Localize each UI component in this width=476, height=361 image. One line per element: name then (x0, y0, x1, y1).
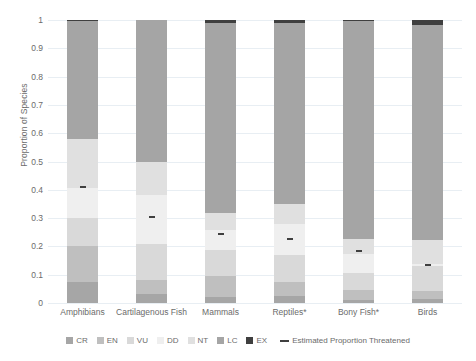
stacked-bar[interactable] (67, 20, 98, 303)
bar-segment-dd[interactable] (343, 254, 374, 272)
threatened-proportion-marker (218, 233, 224, 235)
gridline (48, 303, 462, 304)
bar-segment-vu[interactable] (136, 244, 167, 281)
bar-segment-lc[interactable] (274, 23, 305, 204)
stacked-bar[interactable] (205, 20, 236, 303)
threatened-proportion-marker (80, 186, 86, 188)
gridline (48, 275, 462, 276)
legend-swatch-icon (246, 337, 253, 344)
threatened-proportion-marker (149, 216, 155, 218)
y-axis-tick-label: 1 (38, 15, 43, 25)
bar-segment-nt[interactable] (205, 213, 236, 230)
bar-segment-vu[interactable] (412, 266, 443, 291)
bar-segment-lc[interactable] (343, 21, 374, 239)
bar-segment-lc[interactable] (136, 20, 167, 162)
bar-segment-lc[interactable] (205, 23, 236, 213)
gridline (48, 48, 462, 49)
bar-segment-nt[interactable] (67, 139, 98, 189)
gridline (48, 105, 462, 106)
chart-legend: CRENVUDDNTLCEXEstimated Proportion Threa… (0, 336, 476, 345)
bar-segment-en[interactable] (136, 280, 167, 294)
threatened-proportion-marker (425, 264, 431, 266)
bar-segment-ex[interactable] (343, 20, 374, 21)
bar-segment-nt[interactable] (274, 204, 305, 224)
legend-item-label: EN (107, 336, 118, 345)
y-axis-tick-label: 0.4 (31, 185, 43, 195)
bar-segment-vu[interactable] (67, 218, 98, 246)
legend-item-threatened[interactable]: Estimated Proportion Threatened (280, 336, 410, 345)
chart-root: Proportion of Species 10.90.80.70.60.50.… (0, 0, 476, 361)
bar-segment-cr[interactable] (274, 296, 305, 303)
y-axis-title: Proportion of Species (19, 45, 29, 205)
legend-swatch-icon (157, 337, 164, 344)
y-axis-tick-label: 0.8 (31, 72, 43, 82)
bar-segment-en[interactable] (205, 276, 236, 297)
x-axis-label: Birds (382, 307, 474, 318)
legend-item-label: LC (227, 336, 237, 345)
bar-segment-ex[interactable] (274, 20, 305, 23)
legend-item-label: VU (137, 336, 148, 345)
bar-segment-dd[interactable] (136, 195, 167, 243)
plot-area: 10.90.80.70.60.50.40.30.20.10 (48, 20, 462, 303)
gridline (48, 133, 462, 134)
legend-swatch-icon (127, 337, 134, 344)
gridline (48, 77, 462, 78)
gridline (48, 162, 462, 163)
bar-segment-dd[interactable] (67, 188, 98, 218)
legend-item-label: EX (256, 336, 267, 345)
legend-item-vu[interactable]: VU (127, 336, 148, 345)
y-axis-tick-label: 0.6 (31, 128, 43, 138)
legend-item-label: NT (198, 336, 209, 345)
bar-segment-lc[interactable] (67, 21, 98, 138)
bar-segment-vu[interactable] (205, 250, 236, 275)
bar-segment-cr[interactable] (136, 294, 167, 303)
bar-segment-vu[interactable] (343, 273, 374, 290)
stacked-bar[interactable] (343, 20, 374, 303)
gridline (48, 218, 462, 219)
y-axis-tick-label: 0.9 (31, 43, 43, 53)
bar-segment-nt[interactable] (136, 162, 167, 196)
bar-segment-nt[interactable] (343, 239, 374, 255)
bar-segment-en[interactable] (412, 291, 443, 299)
stacked-bar[interactable] (136, 20, 167, 303)
stacked-bar[interactable] (412, 20, 443, 303)
legend-item-nt[interactable]: NT (188, 336, 209, 345)
y-axis-tick-label: 0.1 (31, 270, 43, 280)
bar-segment-ex[interactable] (412, 20, 443, 25)
bar-segment-nt[interactable] (412, 240, 443, 264)
gridline (48, 246, 462, 247)
legend-item-label: Estimated Proportion Threatened (292, 336, 410, 345)
threatened-proportion-marker (356, 250, 362, 252)
legend-item-dd[interactable]: DD (157, 336, 179, 345)
bar-segment-en[interactable] (343, 290, 374, 300)
y-axis-tick-label: 0.3 (31, 213, 43, 223)
bar-segment-en[interactable] (67, 246, 98, 281)
legend-item-label: DD (167, 336, 179, 345)
bar-segment-cr[interactable] (343, 300, 374, 303)
legend-item-label: CR (76, 336, 88, 345)
legend-swatch-icon (97, 337, 104, 344)
y-axis-tick-label: 0.2 (31, 241, 43, 251)
bar-segment-ex[interactable] (205, 20, 236, 23)
threatened-proportion-marker (287, 238, 293, 240)
stacked-bar[interactable] (274, 20, 305, 303)
bar-segment-cr[interactable] (67, 282, 98, 303)
legend-item-ex[interactable]: EX (246, 336, 267, 345)
gridline (48, 20, 462, 21)
legend-item-en[interactable]: EN (97, 336, 118, 345)
legend-swatch-icon (188, 337, 195, 344)
gridline (48, 190, 462, 191)
legend-line-icon (280, 340, 289, 342)
y-axis-tick-label: 0.7 (31, 100, 43, 110)
bar-segment-cr[interactable] (205, 297, 236, 303)
bar-segment-en[interactable] (274, 282, 305, 296)
legend-item-cr[interactable]: CR (66, 336, 88, 345)
legend-item-lc[interactable]: LC (217, 336, 237, 345)
y-axis-tick-label: 0.5 (31, 157, 43, 167)
legend-swatch-icon (217, 337, 224, 344)
bar-segment-lc[interactable] (412, 25, 443, 241)
bar-segment-cr[interactable] (412, 299, 443, 303)
legend-swatch-icon (66, 337, 73, 344)
bar-segment-vu[interactable] (274, 255, 305, 282)
bar-segment-ex[interactable] (67, 20, 98, 21)
